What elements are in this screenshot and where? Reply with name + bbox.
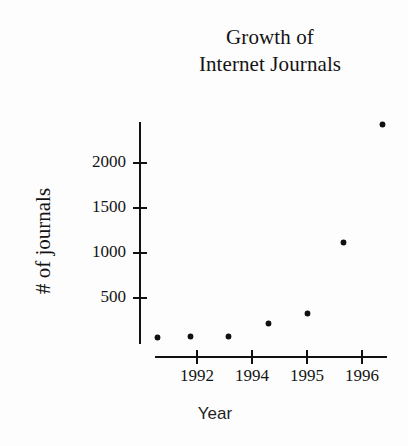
- x-tick-label: 1995: [280, 366, 334, 386]
- x-tick-label: 1992: [170, 366, 224, 386]
- y-tick-label: 1000: [68, 242, 126, 262]
- y-tick-mark: [133, 207, 147, 209]
- x-tick-mark: [251, 350, 253, 364]
- data-point: [305, 311, 310, 316]
- chart-figure: Growth of Internet Journals # of journal…: [0, 0, 408, 446]
- data-point: [380, 122, 385, 127]
- x-tick-mark: [306, 350, 308, 364]
- y-tick-mark: [133, 297, 147, 299]
- x-axis-line: [155, 356, 387, 358]
- x-axis-label: Year: [155, 404, 275, 424]
- data-point: [188, 334, 193, 339]
- x-tick-label: 1996: [335, 366, 389, 386]
- y-tick-mark: [133, 252, 147, 254]
- x-tick-mark: [361, 350, 363, 364]
- data-point: [341, 240, 346, 245]
- y-tick-mark: [133, 162, 147, 164]
- x-tick-mark: [196, 350, 198, 364]
- plot-area: 500100015002000 1992199419951996: [0, 0, 408, 446]
- y-axis-line: [139, 122, 141, 344]
- data-point: [266, 321, 271, 326]
- x-tick-label: 1994: [225, 366, 279, 386]
- y-tick-label: 1500: [68, 197, 126, 217]
- y-tick-label: 2000: [68, 152, 126, 172]
- data-point: [226, 334, 231, 339]
- data-point: [155, 335, 160, 340]
- y-tick-label: 500: [68, 287, 126, 307]
